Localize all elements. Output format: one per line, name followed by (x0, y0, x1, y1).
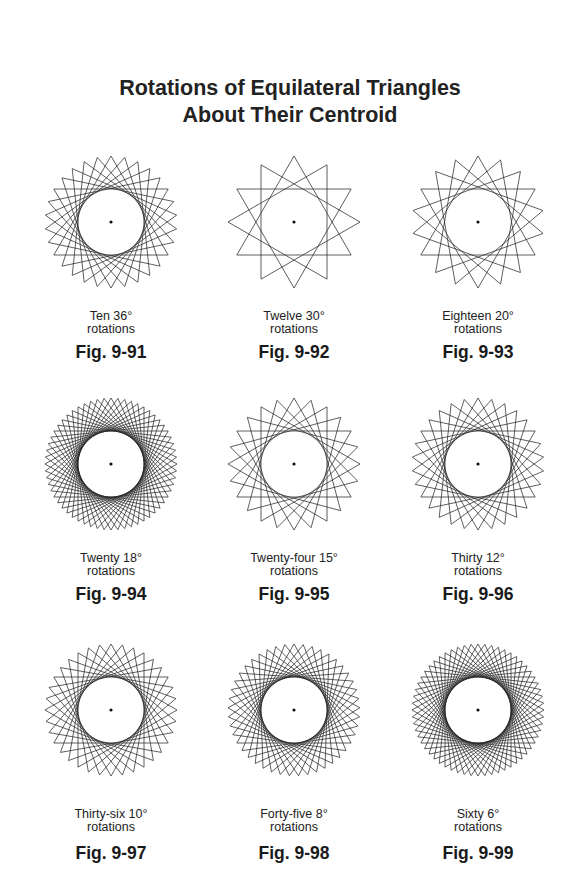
rotated-triangle (261, 407, 360, 521)
figure-caption-line-2: rotations (21, 323, 201, 336)
triangle-rotation-pattern (41, 640, 181, 780)
figure-caption-line-2: rotations (21, 821, 201, 834)
rotated-triangle (421, 156, 535, 255)
centroid-dot (292, 220, 295, 223)
rotated-triangle (230, 647, 340, 758)
rotated-triangle (237, 431, 351, 530)
rotated-triangle (261, 165, 360, 279)
centroid-dot (476, 220, 479, 223)
triangle-rotation-pattern (224, 640, 364, 780)
figure-label: Fig. 9-97 (21, 843, 201, 863)
figure-caption-line-2: rotations (388, 323, 568, 336)
title-line-1: Rotations of Equilateral Triangles (0, 75, 580, 102)
figure-label: Fig. 9-93 (388, 342, 568, 362)
figure-caption-line-2: rotations (388, 821, 568, 834)
rotated-triangle (237, 189, 351, 288)
figure-9-91: Ten 36° rotations Fig. 9-91 (21, 152, 201, 362)
figure-label: Fig. 9-94 (21, 584, 201, 604)
page-title: Rotations of Equilateral Triangles About… (0, 75, 580, 129)
rotated-triangle (237, 398, 351, 497)
triangle-rotation-pattern (408, 640, 548, 780)
figure-label: Fig. 9-95 (204, 584, 384, 604)
figure-label: Fig. 9-92 (204, 342, 384, 362)
figure-caption-line-2: rotations (388, 565, 568, 578)
title-line-2: About Their Centroid (0, 102, 580, 129)
centroid-dot (292, 708, 295, 711)
centroid-dot (109, 220, 112, 223)
centroid-dot (109, 708, 112, 711)
figure-label: Fig. 9-96 (388, 584, 568, 604)
figure-caption-line-2: rotations (204, 323, 384, 336)
figure-9-96: Thirty 12° rotations Fig. 9-96 (388, 394, 568, 604)
centroid-dot (476, 708, 479, 711)
triangle-rotation-pattern (41, 394, 181, 534)
figure-label: Fig. 9-91 (21, 342, 201, 362)
centroid-dot (476, 462, 479, 465)
figure-9-95: Twenty-four 15° rotations Fig. 9-95 (204, 394, 384, 604)
triangle-rotation-pattern (224, 394, 364, 534)
figure-9-97: Thirty-six 10° rotations Fig. 9-97 (21, 640, 201, 863)
rotated-triangle (228, 407, 327, 521)
triangle-rotation-pattern (41, 152, 181, 292)
triangle-rotation-pattern (224, 152, 364, 292)
triangle-rotation-pattern (408, 152, 548, 292)
figure-label: Fig. 9-98 (204, 843, 384, 863)
figure-9-99: Sixty 6° rotations Fig. 9-99 (388, 640, 568, 863)
centroid-dot (109, 462, 112, 465)
figure-9-93: Eighteen 20° rotations Fig. 9-93 (388, 152, 568, 362)
rotated-triangle (248, 647, 358, 758)
centroid-dot (292, 462, 295, 465)
figure-9-94: Twenty 18° rotations Fig. 9-94 (21, 394, 201, 604)
figure-caption-line-2: rotations (21, 565, 201, 578)
figure-9-92: Twelve 30° rotations Fig. 9-92 (204, 152, 384, 362)
rotated-triangle (237, 156, 351, 255)
figure-caption-line-2: rotations (204, 821, 384, 834)
figure-9-98: Forty-five 8° rotations Fig. 9-98 (204, 640, 384, 863)
triangle-rotation-pattern (408, 394, 548, 534)
rotated-triangle (421, 189, 535, 288)
figure-label: Fig. 9-99 (388, 843, 568, 863)
figure-caption-line-2: rotations (204, 565, 384, 578)
rotated-triangle (228, 165, 327, 279)
